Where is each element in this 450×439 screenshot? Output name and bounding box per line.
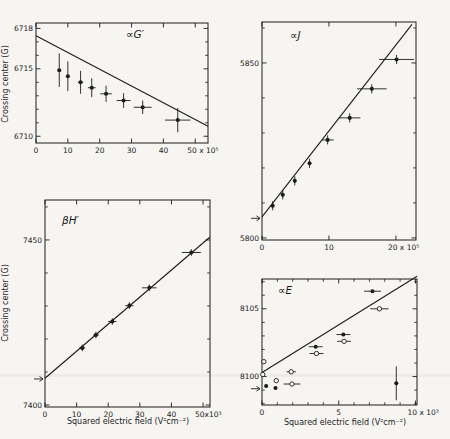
x-tick-label: 0 <box>260 243 265 252</box>
data-point <box>395 57 399 61</box>
plot-title: ∝J <box>290 29 301 41</box>
data-point <box>264 384 268 388</box>
zero-field-arrow-icon <box>251 216 260 221</box>
x-tick-label: 30 <box>127 146 137 155</box>
x-tick-label: 20 <box>95 146 105 155</box>
zero-field-arrow-icon <box>34 377 43 382</box>
data-point <box>307 161 311 165</box>
data-point <box>176 118 180 122</box>
fit-line <box>262 24 412 216</box>
zero-field-arrow-icon <box>251 386 260 391</box>
data-point <box>147 286 151 290</box>
data-point <box>273 386 277 390</box>
data-point <box>394 381 398 385</box>
data-point <box>341 332 345 336</box>
y-tick-label: 7400 <box>23 401 42 410</box>
y-tick-label: 8105 <box>240 304 259 313</box>
fit-line <box>45 237 210 378</box>
y-tick-label: 7450 <box>23 236 42 245</box>
x-tick-label: 50x10³ <box>195 410 222 419</box>
data-point <box>94 333 98 337</box>
data-point <box>104 92 108 96</box>
x-axis-label: Squared electric field (V²cm⁻²) <box>67 417 189 426</box>
x-axis-label: Squared electric field (V²cm⁻²) <box>284 418 406 427</box>
y-tick-label: 6718 <box>14 24 33 33</box>
x-tick-label: 0 <box>260 408 265 417</box>
x-tick-label: 10 <box>63 146 73 155</box>
data-point <box>281 193 285 197</box>
y-tick-label: 5800 <box>240 234 259 243</box>
data-point-open <box>274 378 278 382</box>
y-tick-label: 5850 <box>240 59 259 68</box>
data-point <box>66 74 70 78</box>
data-point <box>370 87 374 91</box>
data-point <box>122 98 126 102</box>
x-tick-label: 10 x 10³ <box>407 408 438 417</box>
data-point <box>127 304 131 308</box>
data-point <box>79 80 83 84</box>
data-point <box>141 105 145 109</box>
plot-alpha-J: 01020 x 10⁵58005850∝J <box>240 22 419 252</box>
data-point <box>80 346 84 350</box>
plot-alpha-E: 0510 x 10³81008105∝ESquared electric fie… <box>240 276 439 427</box>
plot-title: βH′ <box>61 214 80 226</box>
data-point-open <box>290 382 294 386</box>
plot-alpha-G-prime: 01020304050 x 10⁵671067156718∝G′Crossing… <box>1 23 219 155</box>
data-point <box>293 179 297 183</box>
data-point <box>314 345 318 349</box>
plot-frame <box>36 23 208 143</box>
x-tick-label: 20 x 10⁵ <box>388 243 419 252</box>
x-tick-label: 0 <box>43 410 48 419</box>
y-tick-label: 6710 <box>14 132 33 141</box>
y-axis-label: Crossing center (G) <box>1 45 10 123</box>
data-point-open <box>377 307 381 311</box>
data-point <box>370 289 374 293</box>
plot-frame <box>262 279 417 405</box>
plot-title: ∝G′ <box>126 28 145 40</box>
data-point-open <box>289 370 293 374</box>
data-point <box>348 116 352 120</box>
data-point-open <box>261 372 265 376</box>
plot-title: ∝E <box>278 284 293 296</box>
data-point <box>326 138 330 142</box>
level-crossing-figure: 01020304050 x 10⁵671067156718∝G′Crossing… <box>0 0 450 439</box>
data-point <box>189 250 193 254</box>
data-point <box>271 204 275 208</box>
y-axis-label: Crossing center (G) <box>1 264 10 342</box>
x-tick-label: 0 <box>34 146 39 155</box>
data-point-open <box>262 359 266 363</box>
y-tick-label: 6715 <box>14 64 33 73</box>
data-point <box>110 319 114 323</box>
x-tick-label: 40 <box>159 146 169 155</box>
y-tick-label: 8100 <box>240 372 259 381</box>
scan-artifact <box>0 374 450 377</box>
figure-canvas: 01020304050 x 10⁵671067156718∝G′Crossing… <box>0 0 450 439</box>
x-tick-label: 10 <box>324 243 334 252</box>
plot-frame <box>262 22 416 240</box>
x-tick-label: 50 x 10⁵ <box>187 146 218 155</box>
data-point <box>90 86 94 90</box>
fit-line <box>36 36 208 126</box>
x-tick-label: 5 <box>336 408 341 417</box>
data-point <box>57 68 61 72</box>
data-point-open <box>314 351 318 355</box>
data-point-open <box>342 339 346 343</box>
plot-beta-H-prime: 01020304050x10³74007450βH′Crossing cente… <box>1 200 222 426</box>
